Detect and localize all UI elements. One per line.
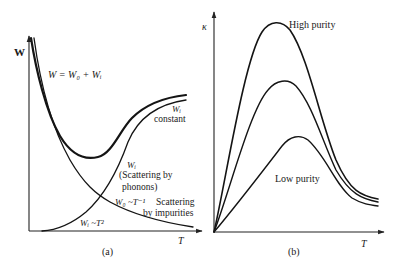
curve-high-purity bbox=[214, 23, 378, 232]
panel-b-y-axis-label: κ bbox=[202, 21, 207, 32]
high-purity-label: High purity bbox=[289, 19, 335, 30]
curve-low-purity bbox=[214, 137, 378, 232]
w0-relation-label: W₀ ~T⁻¹ bbox=[115, 197, 146, 207]
wi-t2-label: Wᵢ ~T² bbox=[80, 218, 104, 228]
wi-constant-text: constant bbox=[154, 114, 186, 124]
low-purity-label: Low purity bbox=[275, 173, 320, 184]
panel-a-x-axis-label: T bbox=[178, 235, 185, 246]
panel-a-y-axis-label: W bbox=[14, 46, 25, 58]
thermal-resistance-conductivity-figure: W T (a) W = W₀ + Wᵢ Wᵢ constant Wᵢ (Scat… bbox=[0, 0, 398, 272]
panel-b-x-axis-label: T bbox=[361, 238, 368, 249]
panel-a: W T (a) W = W₀ + Wᵢ Wᵢ constant Wᵢ (Scat… bbox=[14, 36, 202, 258]
wi-phonons-line2: phonons) bbox=[122, 182, 157, 193]
curve-medium-purity bbox=[214, 81, 378, 232]
impurities-line2: by impurities bbox=[143, 208, 194, 218]
wi-phonons-line1: (Scattering by bbox=[119, 170, 173, 181]
curve-total-w bbox=[31, 38, 186, 158]
wi-phonons-symbol: Wᵢ bbox=[127, 160, 136, 170]
panel-b: κ T (b) High purity Low purity bbox=[202, 12, 384, 258]
panel-a-caption: (a) bbox=[102, 246, 113, 258]
panel-b-caption: (b) bbox=[288, 246, 300, 258]
wi-constant-symbol: Wᵢ bbox=[172, 104, 181, 114]
impurities-line1: Scattering bbox=[156, 197, 195, 207]
equation-label: W = W₀ + Wᵢ bbox=[48, 69, 102, 80]
